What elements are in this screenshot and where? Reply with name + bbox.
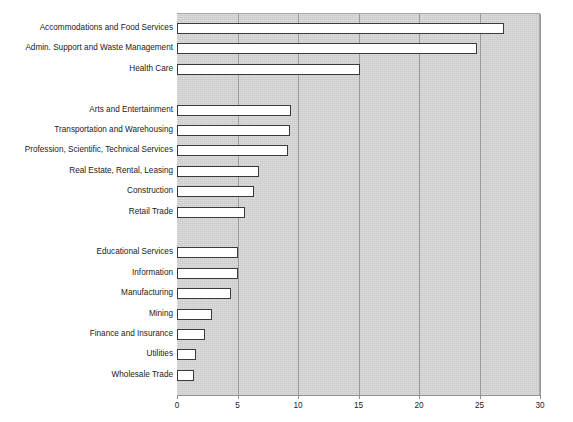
category-label: Utilities xyxy=(0,348,173,359)
x-tick-label-30: 30 xyxy=(520,401,560,410)
gridline-25 xyxy=(480,14,481,395)
bar xyxy=(177,105,291,116)
category-label: Educational Services xyxy=(0,246,173,257)
category-label: Admin. Support and Waste Management xyxy=(0,42,173,53)
bar xyxy=(177,268,238,279)
x-tick-15 xyxy=(359,395,360,399)
bar xyxy=(177,43,477,54)
x-tick-10 xyxy=(298,395,299,399)
bar xyxy=(177,145,288,156)
category-label: Retail Trade xyxy=(0,206,173,217)
category-label: Health Care xyxy=(0,63,173,74)
bar xyxy=(177,125,290,136)
x-tick-label-25: 25 xyxy=(460,401,500,410)
category-label: Profession, Scientific, Technical Servic… xyxy=(0,144,173,155)
plot-area xyxy=(177,13,540,395)
x-tick-label-15: 15 xyxy=(339,401,379,410)
x-tick-0 xyxy=(177,395,178,399)
x-tick-label-0: 0 xyxy=(157,401,197,410)
x-tick-label-10: 10 xyxy=(278,401,318,410)
bar xyxy=(177,349,196,360)
bar xyxy=(177,207,245,218)
category-label: Wholesale Trade xyxy=(0,369,173,380)
bar xyxy=(177,247,238,258)
chart-title xyxy=(0,0,573,4)
x-tick-label-5: 5 xyxy=(218,401,258,410)
bar xyxy=(177,370,194,381)
category-label: Construction xyxy=(0,185,173,196)
bar xyxy=(177,329,205,340)
gridline-20 xyxy=(419,14,420,395)
x-tick-20 xyxy=(419,395,420,399)
bar xyxy=(177,166,259,177)
bar xyxy=(177,309,212,320)
x-tick-25 xyxy=(480,395,481,399)
x-tick-30 xyxy=(540,395,541,399)
category-label: Information xyxy=(0,267,173,278)
bar-chart: Accommodations and Food ServicesAdmin. S… xyxy=(0,0,573,422)
bar xyxy=(177,64,360,75)
category-label: Manufacturing xyxy=(0,287,173,298)
x-tick-label-20: 20 xyxy=(399,401,439,410)
category-label: Mining xyxy=(0,308,173,319)
category-label: Finance and Insurance xyxy=(0,328,173,339)
bar xyxy=(177,186,254,197)
category-label: Accommodations and Food Services xyxy=(0,22,173,33)
bar xyxy=(177,288,231,299)
gridline-30 xyxy=(540,14,541,395)
bar xyxy=(177,23,504,34)
category-label: Real Estate, Rental, Leasing xyxy=(0,165,173,176)
category-label: Transportation and Warehousing xyxy=(0,124,173,135)
category-label: Arts and Entertainment xyxy=(0,104,173,115)
x-tick-5 xyxy=(238,395,239,399)
